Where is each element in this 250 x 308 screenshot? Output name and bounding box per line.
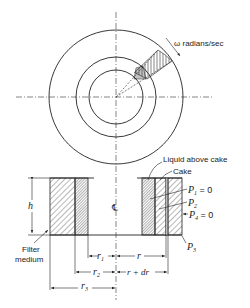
- svg-text:r1: r1: [97, 250, 104, 262]
- svg-text:r3: r3: [81, 280, 88, 292]
- liquid-callout-label: Liquid above cake: [163, 155, 228, 164]
- right-liquid-block: [142, 178, 155, 235]
- svg-text:P4 = 0: P4 = 0: [188, 209, 213, 221]
- svg-text:P1 = 0: P1 = 0: [187, 184, 212, 196]
- filter-medium-label-line1: Filter: [22, 245, 40, 254]
- r-label: r: [137, 250, 141, 261]
- p3-label: P3: [186, 241, 196, 253]
- cake-callout-label: Cake: [173, 167, 192, 176]
- p4-label: P4 = 0: [188, 209, 213, 221]
- filter-medium-label-line2: medium: [15, 255, 44, 264]
- left-cake-block: [75, 178, 88, 235]
- height-label: h: [28, 200, 33, 211]
- filter-medium-leader: [34, 230, 48, 243]
- rdr-label: r + dr: [127, 267, 150, 277]
- centerline-symbol: ℄: [111, 203, 118, 213]
- p1-label: P1 = 0: [187, 184, 212, 196]
- centrifugal-filter-diagram: ω radians/sec h ℄ Liquid above cake Cake: [0, 0, 250, 308]
- svg-text:P2: P2: [187, 197, 197, 209]
- r3-label: r3: [81, 280, 88, 292]
- svg-text:P3: P3: [186, 241, 196, 253]
- rotation-label: ω radians/sec: [174, 39, 223, 48]
- right-cake-block: [155, 178, 166, 235]
- r2-label: r2: [93, 266, 100, 278]
- liquid-callout-leader: [148, 162, 162, 180]
- section-view: h ℄ Liquid above cake Cake P1 = 0 P2 P4 …: [15, 155, 228, 292]
- svg-text:r2: r2: [93, 266, 100, 278]
- p2-label: P2: [187, 197, 197, 209]
- r1-label: r1: [97, 250, 104, 262]
- left-filter-medium-block: [50, 178, 75, 235]
- p3-leader: [182, 236, 186, 243]
